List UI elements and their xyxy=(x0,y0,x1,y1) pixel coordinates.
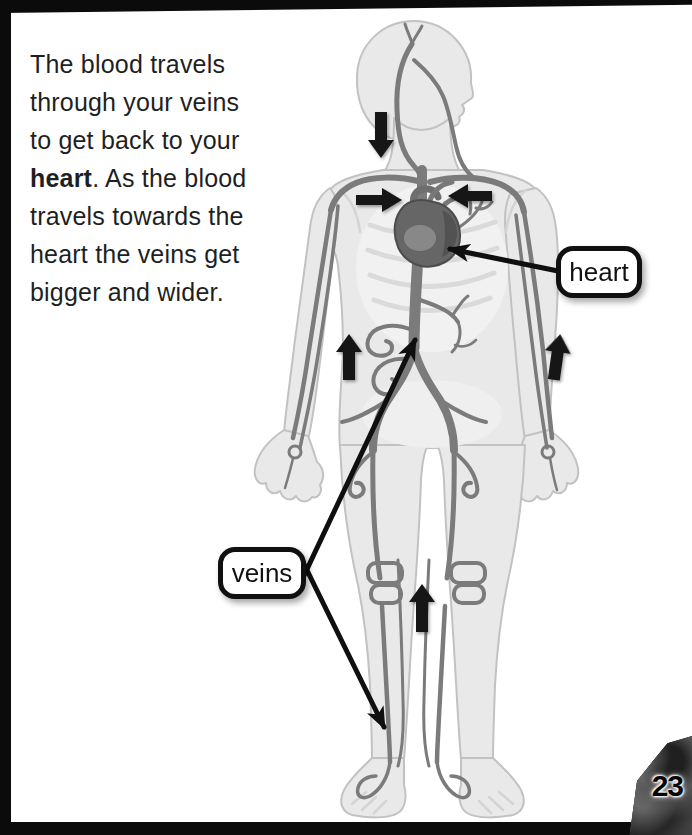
page-number: 23 xyxy=(652,769,683,803)
left-foot-outline xyxy=(341,758,405,817)
veins-label: veins xyxy=(218,547,306,599)
heart-label: heart xyxy=(556,246,642,298)
book-page: The blood travels through your veins to … xyxy=(0,0,692,835)
heart-label-text: heart xyxy=(569,257,628,288)
veins-label-text: veins xyxy=(232,558,293,589)
inferior-vena-cava xyxy=(414,255,418,348)
left-hand-outline xyxy=(255,430,323,501)
circulatory-diagram xyxy=(0,0,692,835)
right-shin-vein xyxy=(437,606,445,762)
